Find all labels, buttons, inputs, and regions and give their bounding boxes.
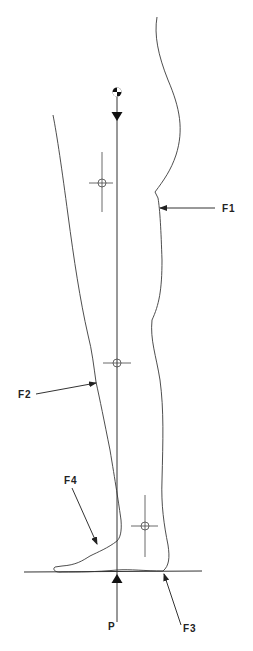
foot-center-crosshair bbox=[131, 495, 158, 557]
ground-line bbox=[24, 571, 202, 572]
gravity-arrow-icon bbox=[112, 112, 123, 121]
posterior-contour bbox=[152, 17, 181, 571]
force-f2: F2 bbox=[18, 383, 96, 400]
leg-force-diagram: F1 F2 F4 F3 P bbox=[0, 0, 253, 651]
thigh-center-crosshair bbox=[89, 152, 113, 212]
foot-contour bbox=[54, 541, 163, 572]
label-f3: F3 bbox=[183, 623, 197, 634]
label-f2: F2 bbox=[18, 389, 32, 400]
label-p: P bbox=[108, 621, 116, 632]
reaction-arrow-icon bbox=[112, 574, 123, 583]
force-f4: F4 bbox=[64, 475, 97, 544]
center-of-mass-symbol bbox=[113, 88, 122, 97]
force-f3: F3 bbox=[164, 574, 197, 634]
force-f1: F1 bbox=[160, 203, 236, 214]
label-f1: F1 bbox=[222, 203, 236, 214]
force-p: P bbox=[108, 574, 123, 632]
label-f4: F4 bbox=[64, 475, 78, 486]
